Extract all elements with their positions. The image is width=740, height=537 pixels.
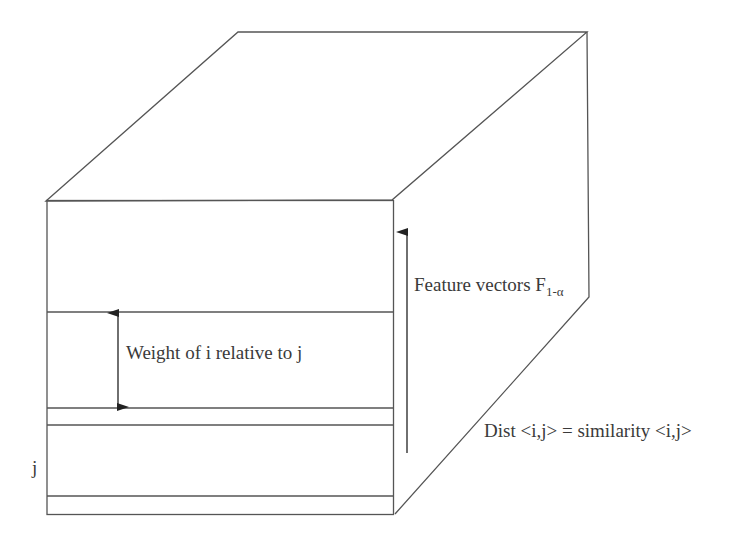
feature-vectors-subscript: 1-α: [546, 284, 564, 299]
feature-cube-diagram: Weight of i relative to j Feature vector…: [0, 0, 740, 537]
cube-top-face: [46, 32, 587, 201]
weight-label: Weight of i relative to j: [126, 342, 302, 363]
feature-vectors-text: Feature vectors F: [414, 274, 546, 295]
cube-right-face: [395, 32, 589, 514]
dist-similarity-label: Dist <i,j> = similarity <i,j>: [484, 420, 692, 441]
j-label: j: [31, 457, 37, 478]
feature-vectors-label: Feature vectors F1-α: [414, 274, 564, 299]
